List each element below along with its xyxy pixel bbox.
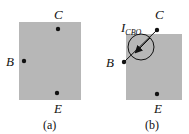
- collector-label-a: C: [54, 7, 63, 22]
- panel-a: C B E (a): [6, 7, 81, 132]
- emitter-label-b: E: [153, 101, 162, 116]
- icbo-label: ICBO: [120, 20, 142, 37]
- semiconductor-block-a: [19, 22, 81, 100]
- icbo-subscript: CBO: [125, 28, 141, 37]
- emitter-terminal-a: [55, 91, 59, 95]
- collector-terminal-a: [56, 27, 60, 31]
- collector-terminal-b: [155, 28, 159, 32]
- base-label-a: B: [6, 54, 14, 69]
- caption-b: (b): [145, 118, 159, 132]
- base-terminal-b: [122, 60, 126, 64]
- base-label-b: B: [106, 55, 114, 70]
- base-terminal-a: [22, 59, 26, 63]
- caption-a: (a): [43, 118, 56, 132]
- collector-label-b: C: [155, 7, 164, 22]
- emitter-label-a: E: [53, 101, 62, 116]
- emitter-terminal-b: [155, 92, 159, 96]
- panel-b: C B E ICBO (b): [106, 7, 182, 132]
- transistor-diagram: C B E (a) C B E ICBO (b): [0, 0, 189, 134]
